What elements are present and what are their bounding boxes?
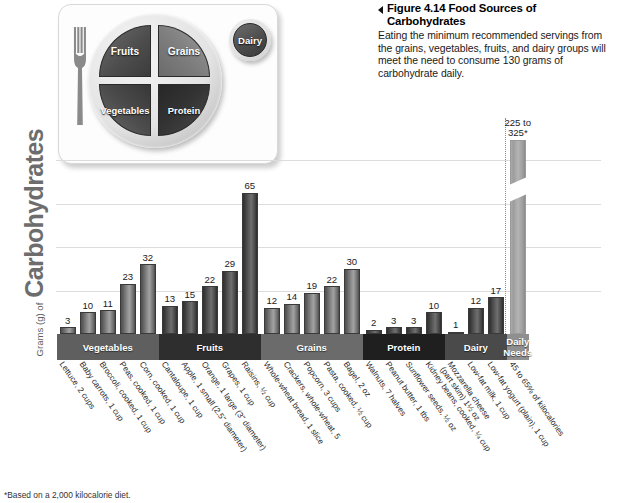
x-axis-labels: Lettuce, 2 cupsBaby carrots, 1 cupBrocco… (0, 360, 618, 490)
left-triangle-icon (378, 6, 383, 14)
category-band-dairy: Dairy (445, 334, 508, 360)
bar-value-label: 29 (224, 259, 235, 269)
bar (510, 140, 526, 334)
figure-title: Figure 4.14 Food Sources of Carbohydrate… (387, 2, 616, 28)
bar-slot: 14 (284, 118, 300, 334)
category-band-vegetables: Vegetables (57, 334, 160, 360)
bar-value-label: 32 (142, 253, 153, 263)
bar-slot: 12 (264, 118, 280, 334)
bar-slot: 23 (120, 118, 136, 334)
bar-slot: 15 (182, 118, 198, 334)
bar-slot: 19 (304, 118, 320, 334)
bar-slot: 30 (344, 118, 360, 334)
bar-slot: 17 (488, 118, 504, 334)
bar (80, 312, 96, 334)
chart-plot-area: 3101123321315222965121419223023310112172… (56, 118, 618, 334)
axis-break-marker (509, 177, 527, 202)
bar-slot: 3 (406, 118, 422, 334)
category-band-grains: Grains (261, 334, 364, 360)
bar-value-label: 13 (164, 294, 175, 304)
bar-slot: 10 (426, 118, 442, 334)
bar-value-label: 65 (244, 181, 255, 191)
figure-caption-title-row: Figure 4.14 Food Sources of Carbohydrate… (378, 2, 616, 28)
bar-value-label: 10 (82, 301, 93, 311)
plate-label-grains: Grains (168, 46, 200, 57)
category-band-daily-needs: DailyNeeds (507, 334, 530, 360)
bar-value-label: 19 (306, 281, 317, 291)
bar-series: 3101123321315222965121419223023310112172… (56, 118, 618, 334)
bar-slot: 29 (222, 118, 238, 334)
bar-slot: 1 (448, 118, 464, 334)
plate-label-vegetables: Vegetables (101, 105, 150, 116)
bar-value-label: 225 to325* (504, 118, 531, 138)
bar-slot: 65 (242, 118, 258, 334)
bar (324, 286, 340, 334)
fork-icon (73, 27, 87, 127)
bar-slot: 3 (386, 118, 402, 334)
bar (344, 269, 360, 334)
y-axis-title-units: Grams (g) of (34, 303, 45, 357)
figure-caption: Figure 4.14 Food Sources of Carbohydrate… (378, 2, 616, 80)
bar-slot: 3 (60, 118, 76, 334)
bar-value-label: 14 (286, 292, 297, 302)
bar-value-label: 15 (184, 290, 195, 300)
bar-value-label: 12 (266, 296, 277, 306)
bar (202, 286, 218, 334)
bar-value-label: 3 (65, 316, 70, 326)
bar (488, 297, 504, 334)
bar-slot: 225 to325* (510, 118, 526, 334)
bar-slot: 13 (162, 118, 178, 334)
dairy-circle: Dairy (233, 23, 267, 57)
chart-footnote: *Based on a 2,000 kilocalorie diet. (4, 490, 131, 500)
bar (120, 284, 136, 334)
bar (304, 293, 320, 334)
bar-value-label: 11 (103, 299, 113, 309)
bar (182, 301, 198, 334)
bar (222, 271, 238, 334)
band-label-line1: Daily (506, 336, 529, 347)
bar-value-label: 12 (470, 296, 481, 306)
bar-value-label: 22 (204, 275, 215, 285)
bar-value-label: 3 (391, 316, 396, 326)
y-axis-title: Grams (g) of Carbohydrates (20, 97, 49, 357)
bar-slot: 32 (140, 118, 156, 334)
figure-description: Eating the minimum recommended servings … (378, 30, 616, 80)
bar (264, 308, 280, 334)
bar (284, 304, 300, 334)
bar-value-label: 23 (122, 272, 133, 282)
plate-section-dairy: Dairy (229, 19, 271, 61)
plate-label-dairy: Dairy (238, 35, 262, 46)
bar-value-label: 17 (490, 286, 501, 296)
bar-slot: 22 (202, 118, 218, 334)
bar-slot: 11 (100, 118, 116, 334)
bar (468, 308, 484, 334)
bar-value-label: 1 (453, 320, 458, 330)
plate-label-protein: Protein (168, 105, 200, 116)
bar-value-label: 10 (428, 301, 439, 311)
category-band-protein: Protein (363, 334, 446, 360)
category-band-fruits: Fruits (159, 334, 262, 360)
bar-value-label: 2 (371, 318, 376, 328)
band-label-line2: Needs (503, 347, 532, 358)
bar (100, 310, 116, 334)
bar-slot: 10 (80, 118, 96, 334)
y-axis-title-main: Carbohydrates (20, 129, 49, 298)
bar-slot: 2 (366, 118, 382, 334)
bar-value-label: 30 (346, 257, 357, 267)
plate-label-fruits: Fruits (111, 46, 139, 57)
bar-slot: 12 (468, 118, 484, 334)
bar (162, 306, 178, 334)
bar-slot: 22 (324, 118, 340, 334)
bar (426, 312, 442, 334)
bar (242, 193, 258, 334)
bar-value-label: 22 (326, 275, 337, 285)
bar-value-label: 3 (411, 316, 416, 326)
bar (140, 264, 156, 334)
